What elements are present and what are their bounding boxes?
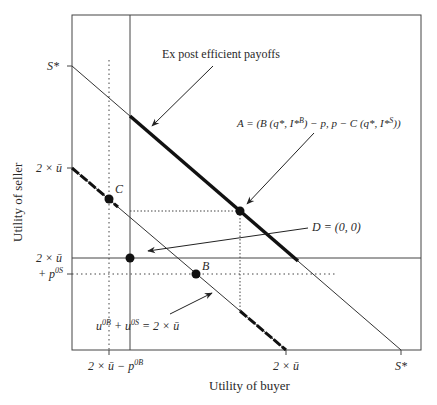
arrow-point-a — [247, 133, 314, 204]
y-label-two-u-p0s-line1: 2 × ū — [36, 251, 62, 265]
point-d — [126, 254, 135, 263]
point-a — [236, 207, 245, 216]
arrow-efficient — [152, 66, 213, 126]
x-label-two-u: 2 × ū — [273, 359, 299, 373]
point-b — [192, 270, 201, 279]
label-b: B — [202, 259, 210, 273]
arrow-constraint — [170, 293, 212, 314]
x-label-s-star: S* — [395, 359, 407, 373]
annotation-point-d: D = (0, 0) — [311, 220, 361, 234]
annotation-efficient: Ex post efficient payoffs — [162, 47, 280, 61]
annotation-point-a: A = (B (q*, I*B) − p, p − C (q*, I*S)) — [236, 116, 401, 130]
payoff-diagram: C B Ex post efficient payoffs A = (B (q*… — [0, 0, 437, 405]
plot-frame — [72, 15, 421, 350]
y-axis-title: Utility of seller — [10, 162, 25, 242]
label-c: C — [115, 182, 124, 196]
annotation-constraint: u0B + u0S = 2 × ū — [96, 318, 179, 333]
y-label-two-u: 2 × ū — [36, 161, 62, 175]
point-c — [105, 195, 114, 204]
x-label-two-u-minus-p0b: 2 × ū − p0B — [88, 358, 143, 373]
y-label-two-u-p0s-line2: + p0S — [38, 266, 63, 281]
y-label-s-star: S* — [47, 59, 59, 73]
x-axis-title: Utility of buyer — [209, 378, 291, 393]
